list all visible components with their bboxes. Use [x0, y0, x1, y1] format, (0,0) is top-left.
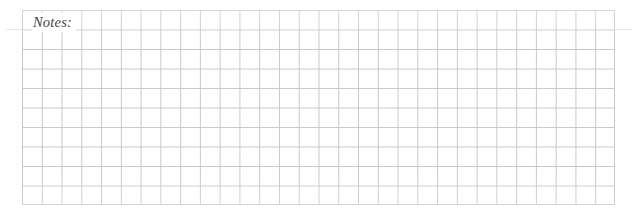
notes-grid[interactable]	[22, 10, 615, 205]
notes-label: Notes:	[32, 13, 76, 32]
notes-page: Notes:	[0, 0, 633, 217]
right-bleed-rule	[612, 29, 632, 30]
